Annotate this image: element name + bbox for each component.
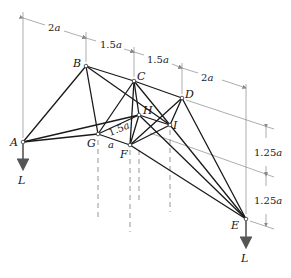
joint-H	[137, 113, 141, 117]
truss-diagram: A B C D E F G H I L L 2a 1.5a 1.5a 2a 1.…	[0, 0, 291, 278]
label-I: I	[172, 119, 178, 132]
joint-C	[132, 79, 136, 83]
side-extension-lines	[150, 100, 274, 229]
joint-I	[168, 123, 172, 127]
joint-F	[128, 143, 132, 147]
truss-members	[23, 66, 246, 219]
load-label-A: L	[17, 174, 25, 187]
dim-label-AB: 2a	[48, 22, 60, 33]
label-E: E	[230, 219, 239, 232]
label-F: F	[119, 148, 128, 161]
joint-D	[180, 96, 184, 100]
load-arrows	[23, 144, 246, 246]
dim-label-BC: 1.5a	[100, 39, 122, 50]
joint-G	[96, 132, 100, 136]
label-G: G	[87, 137, 96, 150]
label-B: B	[72, 57, 81, 70]
label-H: H	[142, 104, 153, 117]
joint-E	[244, 217, 248, 221]
top-extension-lines	[23, 12, 246, 214]
label-C: C	[137, 70, 146, 83]
dim-label-side-lower: 1.25a	[254, 195, 282, 206]
dim-label-DE: 2a	[201, 72, 213, 83]
label-A: A	[9, 136, 18, 149]
joint-A	[21, 140, 25, 144]
load-label-E: L	[240, 252, 248, 265]
label-D: D	[184, 88, 194, 101]
dim-label-CD: 1.5a	[147, 54, 169, 65]
joint-B	[84, 64, 88, 68]
dim-label-GF: a	[108, 139, 114, 150]
dim-label-side-upper: 1.25a	[254, 147, 282, 158]
